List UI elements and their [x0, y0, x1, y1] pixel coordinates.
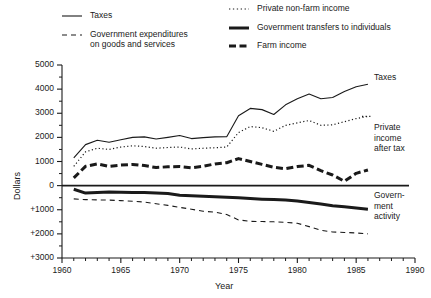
- y-tick-label: 0: [0, 180, 54, 190]
- annotation-private-income-line3: after tax: [374, 143, 405, 154]
- y-tick-label: +1000: [0, 204, 54, 214]
- annotation-private-income: Private income after tax: [374, 122, 405, 154]
- x-tick-label: 1975: [226, 265, 252, 275]
- x-tick-label: 1980: [284, 265, 310, 275]
- x-tick-label: 1985: [343, 265, 369, 275]
- y-tick-label: 1000: [0, 156, 54, 166]
- plot-area: [0, 0, 431, 298]
- x-tick-label: 1970: [167, 265, 193, 275]
- annotation-private-income-line1: Private: [374, 122, 405, 133]
- series-line: [74, 159, 368, 182]
- y-tick-label: 3000: [0, 107, 54, 117]
- annotation-government-activity-line1: Govern-: [374, 190, 405, 201]
- y-tick-label: 2000: [0, 131, 54, 141]
- annotation-taxes: Taxes: [374, 72, 396, 83]
- annotation-private-income-line2: income: [374, 133, 405, 144]
- series-line: [74, 116, 368, 166]
- x-tick-label: 1960: [49, 265, 75, 275]
- chart-figure: Taxes Government expenditures on goods a…: [0, 0, 431, 298]
- y-tick-label: +3000: [0, 252, 54, 262]
- x-tick-label: 1965: [108, 265, 134, 275]
- series-line: [74, 189, 368, 209]
- y-tick-label: 5000: [0, 59, 54, 69]
- x-tick-label: 1990: [402, 265, 428, 275]
- annotation-government-activity: Govern- ment activity: [374, 190, 405, 222]
- y-tick-label: 4000: [0, 83, 54, 93]
- annotation-government-activity-line3: activity: [374, 211, 405, 222]
- annotation-government-activity-line2: ment: [374, 201, 405, 212]
- x-axis-title: Year: [215, 281, 233, 291]
- y-tick-label: +2000: [0, 228, 54, 238]
